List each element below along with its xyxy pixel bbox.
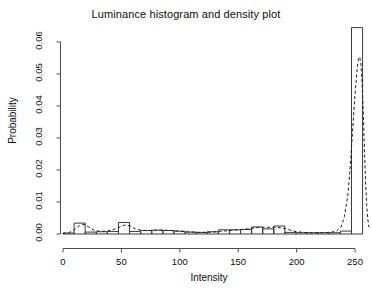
plot-canvas [0,0,372,294]
x-tick-label: 250 [335,256,372,267]
x-tick-label: 100 [160,256,200,267]
histogram-bar [351,28,362,234]
x-tick-label: 200 [277,256,317,267]
histogram-bar [118,222,129,234]
y-tick-label: 0.04 [32,88,43,122]
x-tick-label: 0 [43,256,83,267]
y-tick-label: 0.02 [32,152,43,186]
density-curve [63,57,369,233]
y-tick-label: 0.01 [32,184,43,218]
x-axis-ticks [63,249,355,253]
x-tick-label: 50 [101,256,141,267]
y-tick-label: 0.03 [32,120,43,154]
y-tick-label: 0.05 [32,56,43,90]
axes-group [57,42,356,253]
luminance-histogram-plot: Luminance histogram and density plot Pro… [0,0,372,294]
y-axis-ticks [57,42,61,234]
histogram-bar [241,230,252,234]
histogram-bar [218,230,229,234]
histogram-bar [152,230,163,234]
histogram-bar [263,229,274,234]
histogram-bar [141,230,152,234]
histogram-bars [63,28,363,234]
y-tick-label: 0.00 [32,216,43,250]
x-tick-label: 150 [218,256,258,267]
y-tick-label: 0.06 [32,24,43,58]
